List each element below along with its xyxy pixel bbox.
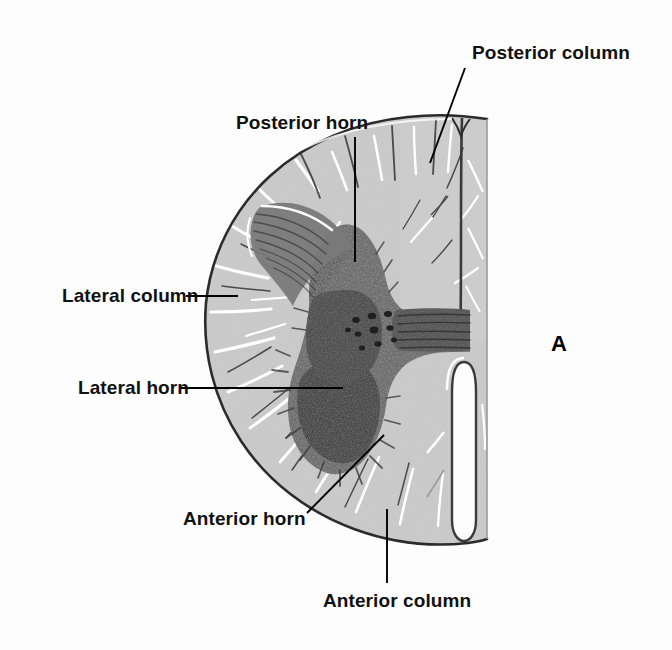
- label-lateral-horn: Lateral horn: [78, 377, 189, 399]
- label-lateral-column: Lateral column: [62, 285, 199, 307]
- posterior-funiculus: [400, 110, 510, 340]
- spinal-cord-diagram: [0, 0, 672, 650]
- label-anterior-horn: Anterior horn: [183, 508, 306, 530]
- label-anterior-column: Anterior column: [323, 590, 471, 612]
- label-posterior-horn: Posterior horn: [236, 112, 368, 134]
- label-posterior-column: Posterior column: [472, 42, 630, 64]
- panel-letter-a: A: [551, 331, 567, 357]
